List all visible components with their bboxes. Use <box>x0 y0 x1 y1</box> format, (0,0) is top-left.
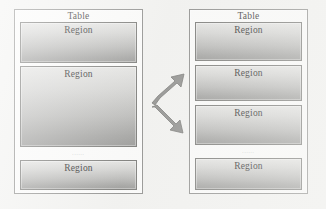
right-table-region-3: Region <box>195 105 302 145</box>
right-table: Table Region Region Region ...... Region <box>189 9 308 194</box>
left-table-region-1: Region <box>20 22 137 63</box>
right-table-region-2: Region <box>195 65 302 101</box>
region-label: Region <box>196 107 301 119</box>
region-label: Region <box>21 162 136 174</box>
left-table: Table Region Region ...... Region <box>14 9 143 194</box>
split-arrow-down-icon <box>150 104 186 138</box>
region-label: Region <box>21 68 136 80</box>
region-label: Region <box>196 160 301 172</box>
right-table-region-1: Region <box>195 22 302 61</box>
region-label: Region <box>21 24 136 36</box>
left-table-region-2: Region <box>20 66 137 147</box>
right-table-ellipsis: ...... <box>195 149 302 155</box>
region-label: Region <box>196 24 301 36</box>
left-table-region-3: Region <box>20 160 137 190</box>
table-split-diagram: Table Region Region ...... Region Table … <box>0 0 326 209</box>
left-table-title: Table <box>15 11 142 22</box>
left-table-ellipsis: ...... <box>20 151 137 157</box>
right-table-region-4: Region <box>195 158 302 190</box>
split-arrow-up-icon <box>150 72 186 106</box>
right-table-title: Table <box>190 11 307 22</box>
region-label: Region <box>196 67 301 79</box>
